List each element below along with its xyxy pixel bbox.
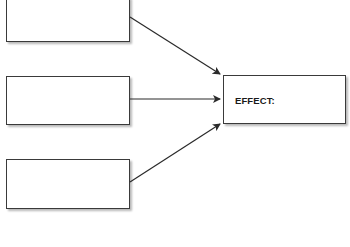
effect-label: EFFECT: (235, 94, 275, 105)
effect-box: EFFECT: (223, 75, 346, 124)
arrow-3 (130, 124, 220, 182)
arrow-1 (130, 17, 220, 74)
